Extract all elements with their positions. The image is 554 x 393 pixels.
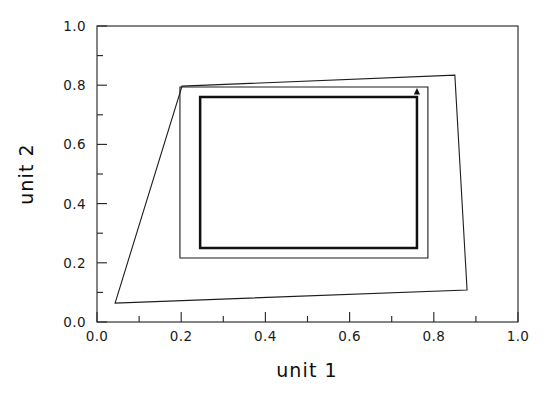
x-tick-label-2: 0.4 xyxy=(254,328,277,344)
chart-figure: 0.0 0.2 0.4 0.6 0.8 1.0 0.0 0.2 0.4 0.6 … xyxy=(0,0,554,393)
direction-arrow-icon xyxy=(414,88,420,95)
series-inner-rectangle xyxy=(200,97,417,248)
x-tick-label-3: 0.6 xyxy=(338,328,361,344)
x-tick-label-0: 0.0 xyxy=(86,328,109,344)
y-axis-title: unit 2 xyxy=(15,143,37,205)
y-tick-label-1: 0.2 xyxy=(63,255,86,271)
series-outer-quadrilateral xyxy=(115,75,467,303)
x-axis-minor-ticks xyxy=(139,316,476,322)
x-axis-title: unit 1 xyxy=(276,359,338,381)
y-tick-label-0: 0.0 xyxy=(63,314,86,330)
plot-canvas: 0.0 0.2 0.4 0.6 0.8 1.0 0.0 0.2 0.4 0.6 … xyxy=(0,0,554,393)
y-tick-label-4: 0.8 xyxy=(63,77,86,93)
y-tick-label-2: 0.4 xyxy=(63,196,86,212)
x-tick-label-5: 1.0 xyxy=(507,328,530,344)
x-tick-label-4: 0.8 xyxy=(422,328,445,344)
annotation-group xyxy=(414,88,420,95)
y-tick-label-3: 0.6 xyxy=(63,136,86,152)
y-tick-label-5: 1.0 xyxy=(63,18,86,34)
y-axis-minor-ticks xyxy=(97,56,103,293)
x-tick-label-1: 0.2 xyxy=(170,328,193,344)
data-series-group xyxy=(115,75,467,303)
plot-frame xyxy=(97,26,518,322)
series-middle-rectangle xyxy=(180,87,428,258)
